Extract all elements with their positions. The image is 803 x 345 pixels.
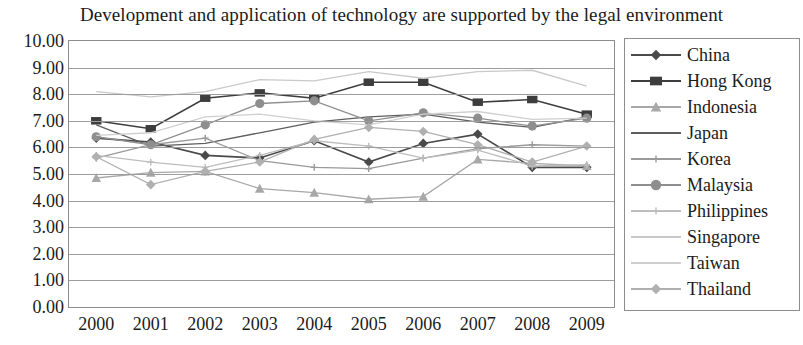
legend-item-singapore[interactable]: Singapore	[629, 224, 797, 250]
x-axis-tick: 2009	[569, 311, 605, 337]
y-axis: 10.009.008.007.006.005.004.003.002.001.0…	[0, 40, 64, 308]
y-axis-tick: 0.00	[0, 298, 64, 316]
legend-item-label: Malaysia	[687, 175, 753, 195]
legend-item-indonesia[interactable]: Indonesia	[629, 94, 797, 120]
legend-marker-icon	[629, 174, 683, 196]
y-axis-tick: 1.00	[0, 271, 64, 289]
gridline	[69, 280, 614, 281]
series-thailand	[91, 123, 591, 190]
chart-screenshot: Development and application of technolog…	[0, 0, 803, 345]
data-point	[418, 78, 428, 85]
x-axis-tick: 2005	[351, 311, 387, 337]
data-point	[202, 135, 209, 142]
y-axis-tick: 6.00	[0, 138, 64, 156]
legend-item-label: Japan	[687, 123, 728, 143]
gridline	[69, 68, 614, 69]
legend-item-label: Indonesia	[687, 97, 757, 117]
x-axis-tick: 2006	[405, 311, 441, 337]
legend-marker-icon	[629, 70, 683, 92]
series-korea	[93, 135, 590, 172]
gridline	[69, 94, 614, 95]
data-point	[364, 78, 374, 85]
series-singapore	[96, 70, 587, 97]
legend-marker-icon	[629, 122, 683, 144]
x-axis-tick: 2000	[78, 311, 114, 337]
gridline	[69, 147, 614, 148]
data-point	[420, 155, 427, 162]
legend-list: ChinaHong KongIndonesiaJapanKoreaMalaysi…	[629, 42, 797, 302]
legend-item-malaysia[interactable]: Malaysia	[629, 172, 797, 198]
x-axis-tick: 2003	[242, 311, 278, 337]
legend-item-label: Philippines	[687, 201, 768, 221]
legend-item-label: China	[687, 45, 730, 65]
legend-item-hong-kong[interactable]: Hong Kong	[629, 68, 797, 94]
data-point	[528, 122, 537, 131]
data-point	[473, 98, 483, 105]
x-axis-tick: 2007	[460, 311, 496, 337]
x-axis-tick: 2002	[187, 311, 223, 337]
y-axis-tick: 10.00	[0, 32, 64, 50]
x-axis-tick: 2001	[133, 311, 169, 337]
gridline	[69, 121, 614, 122]
legend-item-japan[interactable]: Japan	[629, 120, 797, 146]
data-point	[310, 96, 319, 105]
x-axis-tick: 2008	[514, 311, 550, 337]
y-axis-tick: 3.00	[0, 218, 64, 236]
series-line	[96, 70, 587, 97]
legend-item-taiwan[interactable]: Taiwan	[629, 250, 797, 276]
data-point	[527, 96, 537, 103]
x-axis-tick: 2004	[296, 311, 332, 337]
data-point	[311, 164, 318, 171]
x-axis: 2000200120022003200420052006200720082009	[68, 311, 615, 341]
y-axis-tick: 8.00	[0, 85, 64, 103]
legend-item-korea[interactable]: Korea	[629, 146, 797, 172]
legend-item-label: Hong Kong	[687, 71, 772, 91]
legend-item-china[interactable]: China	[629, 42, 797, 68]
data-point	[418, 127, 428, 137]
gridline	[69, 254, 614, 255]
data-point	[419, 108, 428, 117]
legend-marker-icon	[629, 278, 683, 300]
data-point	[91, 152, 101, 162]
data-point	[255, 89, 265, 96]
plot-inner	[69, 41, 614, 307]
legend-marker-icon	[629, 148, 683, 170]
data-point	[200, 94, 210, 101]
gridline	[69, 201, 614, 202]
legend-item-label: Korea	[687, 149, 731, 169]
series-china	[91, 129, 591, 172]
plot-area	[68, 40, 615, 308]
legend-marker-icon	[629, 96, 683, 118]
legend-marker-icon	[629, 252, 683, 274]
legend-item-philippines[interactable]: Philippines	[629, 198, 797, 224]
legend-item-thailand[interactable]: Thailand	[629, 276, 797, 302]
y-axis-tick: 2.00	[0, 245, 64, 263]
y-axis-tick: 9.00	[0, 59, 64, 77]
data-point	[92, 132, 101, 141]
data-point	[365, 165, 372, 172]
legend-marker-icon	[629, 226, 683, 248]
y-axis-tick: 7.00	[0, 112, 64, 130]
legend-item-label: Thailand	[687, 279, 751, 299]
data-point	[146, 180, 156, 190]
page-title: Development and application of technolog…	[0, 2, 803, 28]
legend-item-label: Singapore	[687, 227, 760, 247]
data-point	[473, 129, 483, 139]
data-point	[147, 159, 154, 166]
legend: ChinaHong KongIndonesiaJapanKoreaMalaysi…	[624, 38, 800, 311]
gridline	[69, 174, 614, 175]
legend-marker-icon	[629, 200, 683, 222]
series-line	[96, 127, 587, 184]
data-point	[255, 99, 264, 108]
legend-item-label: Taiwan	[687, 253, 740, 273]
data-point	[200, 151, 210, 161]
gridline	[69, 227, 614, 228]
legend-marker-icon	[629, 44, 683, 66]
y-axis-tick: 4.00	[0, 192, 64, 210]
y-axis-tick: 5.00	[0, 165, 64, 183]
